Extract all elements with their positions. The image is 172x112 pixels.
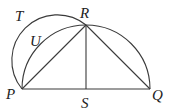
label-P: P: [5, 86, 15, 102]
geometry-diagram: T U R P S Q: [0, 0, 172, 112]
label-T: T: [15, 8, 25, 24]
segment-RQ: [86, 25, 150, 89]
label-Q: Q: [152, 87, 163, 103]
label-U: U: [30, 33, 42, 49]
label-R: R: [79, 5, 89, 21]
label-S: S: [81, 95, 89, 111]
